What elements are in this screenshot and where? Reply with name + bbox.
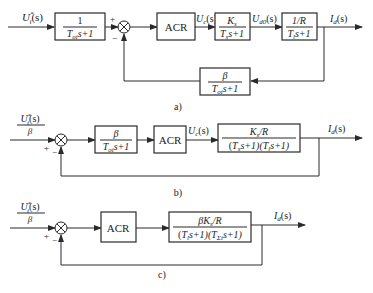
svg-text:β: β [222,70,228,81]
plus-sign-a: + [110,14,115,24]
armature-block-a: 1/R Tls+1 [282,13,317,41]
acr-block-a: ACR [157,13,195,40]
svg-text:β: β [27,214,33,224]
id-label-c: Id(s) [273,210,291,223]
converter-block-a: Ks Tss+1 [215,13,250,41]
caption-b: b) [174,187,182,199]
acr-block-c: ACR [101,212,136,242]
feedback-filter-block-a: β Tois+1 [200,68,250,96]
summing-junction-a [118,21,130,33]
uc-label-b: Uc(s) [188,125,209,138]
minus-sign-a: − [112,33,117,43]
id-label-b: Id(s) [327,123,345,136]
svg-text:ACR: ACR [159,134,182,146]
summing-junction-c [55,222,67,234]
diagram-c: U*i(s) β + − ACR βKs/R (Tls+1)(TΣis+1) I… [10,200,305,281]
diagram-b: U*i(s) β + − β Tois+1 ACR Uc(s) Ks/R [10,112,362,199]
diagram-a: U*i(s) 1 Tois+1 + − ACR Uc(s) K [8,10,362,113]
svg-text:ACR: ACR [107,222,130,234]
acr-block-b: ACR [154,126,186,153]
plus-sign-c: + [44,231,49,241]
summing-junction-b [55,134,67,146]
input-label-b: U*i(s) β [17,112,45,136]
plus-sign-b: + [44,143,49,153]
id-label-a: Id(s) [329,13,347,26]
ud0-label-a: Ud0(s) [252,13,277,26]
caption-a: a) [174,101,182,113]
svg-text:1/R: 1/R [292,15,306,26]
caption-c: c) [158,269,166,281]
minus-sign-b: − [52,147,57,157]
svg-text:1: 1 [78,15,83,26]
input-label-c: U*i(s) β [17,200,45,224]
plant-block-b: Ks/R (Tss+1)(Tls+1) [218,124,300,153]
plant-block-c: βKs/R (Tls+1)(TΣis+1) [169,212,251,242]
block-diagrams: U*i(s) 1 Tois+1 + − ACR Uc(s) K [0,0,373,293]
svg-text:β: β [27,126,33,136]
svg-text:ACR: ACR [165,21,188,33]
uc-label-a: Uc(s) [196,13,217,26]
minus-sign-c: − [52,235,57,245]
input-filter-block-a: 1 Tois+1 [55,13,105,41]
beta-filter-block-b: β Tois+1 [95,126,137,154]
svg-text:β: β [113,128,119,139]
input-label-a: U*i(s) [22,10,43,26]
